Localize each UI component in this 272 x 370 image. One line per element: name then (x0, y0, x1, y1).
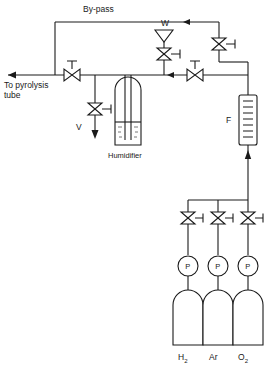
cylinder-line-h2: P (173, 212, 203, 345)
cylinder-oxygen-body (233, 290, 263, 345)
schematic-diagram: By-pass To pyrolysis tube V (0, 0, 272, 370)
gauge-ar-symbol: P (215, 262, 220, 271)
valve-v[interactable] (88, 103, 111, 115)
valve-cylinder-h2-stem (195, 214, 203, 223)
valve-cylinder-o2-body (241, 212, 255, 224)
valve-cylinder-ar-body (211, 212, 225, 224)
gauge-h2-symbol: P (185, 262, 190, 271)
valve-cylinder-ar[interactable] (211, 212, 233, 224)
humidifier-vessel (115, 75, 141, 145)
bypass-line-group (55, 19, 219, 75)
valve-main-outlet-stem (67, 61, 77, 69)
bypass-label: By-pass (83, 4, 114, 14)
gauge-o2-symbol: P (245, 262, 250, 271)
flowmeter-label: F (226, 115, 231, 125)
vent-w-label: W (161, 18, 169, 28)
valve-bypass[interactable] (212, 38, 235, 50)
humidifier-inlet-flow-arrow (167, 72, 174, 78)
valve-bypass-stem (226, 40, 235, 49)
valve-humidifier-inlet-stem (190, 61, 200, 69)
valve-v-stem (102, 105, 111, 114)
humidifier-body (115, 77, 141, 145)
valve-w[interactable] (157, 48, 180, 60)
valve-cylinder-h2-body (181, 212, 195, 224)
valve-w-body (157, 48, 171, 60)
schematic-canvas: By-pass To pyrolysis tube V (0, 0, 272, 370)
valve-v-body (88, 103, 102, 115)
flowmeter-flow-arrow (245, 150, 251, 159)
vent-v-label: V (76, 122, 82, 132)
valve-humidifier-inlet-body (187, 69, 203, 81)
cylinder-hydrogen-body (173, 290, 203, 345)
cylinder-line-o2: P (233, 212, 263, 345)
manifold-header-group (188, 200, 248, 212)
valve-cylinder-o2[interactable] (241, 212, 263, 224)
vent-w-funnel-icon (155, 30, 173, 42)
bypass-flow-arrow (183, 19, 190, 25)
outlet-label-line2: tube (4, 90, 21, 100)
valve-humidifier-inlet[interactable] (187, 61, 203, 81)
valve-w-stem (171, 50, 180, 59)
valve-cylinder-ar-stem (225, 214, 233, 223)
outlet-flow-arrow (8, 72, 16, 79)
humidifier-label: Humidifier (108, 151, 142, 160)
cylinder-hydrogen-label: H2 (178, 352, 188, 364)
cylinder-oxygen-label: O2 (238, 352, 249, 364)
vent-v-discharge-arrow (92, 130, 99, 139)
valve-cylinder-h2[interactable] (181, 212, 203, 224)
valve-bypass-body (212, 38, 226, 50)
valve-main-outlet-body (64, 69, 80, 81)
outlet-label-line1: To pyrolysis (4, 80, 48, 90)
flowmeter-group (239, 62, 257, 200)
valve-main-outlet[interactable] (64, 61, 80, 81)
cylinder-argon-label: Ar (209, 352, 218, 362)
valve-cylinder-o2-stem (255, 214, 263, 223)
cylinder-argon-body (203, 290, 233, 345)
cylinder-line-ar: P (203, 212, 233, 345)
